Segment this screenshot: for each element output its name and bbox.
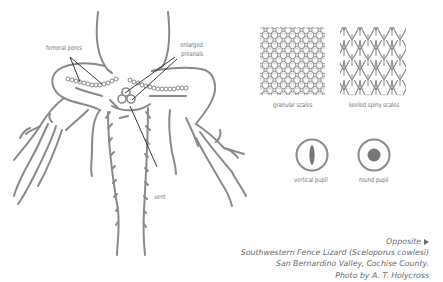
caption-species: Southwestern Fence Lizard (Sceloporus co… [241,247,429,258]
keeled-spiny-scales-icon [340,27,406,95]
vent-label: vent [154,194,166,201]
opposite-reference: Opposite [241,236,429,247]
enlarged-preanals-label-line2: preanals [181,51,203,58]
photo-caption: Opposite Southwestern Fence Lizard (Scel… [241,236,429,281]
round-pupil-icon [359,140,390,171]
caption-location: San Bernardino Valley, Cochise County. [241,258,429,269]
enlarged-preanals-label-line1: enlarged [180,42,203,49]
opposite-label: Opposite [386,237,421,246]
femoral-pores-label: femoral pores [46,45,82,52]
triangle-right-icon [424,239,429,245]
vertical-pupil-label: vertical pupil [294,177,328,184]
round-pupil-label: round pupil [359,177,388,184]
granular-scales-label: granular scales [273,102,313,109]
caption-credit: Photo by A. T. Holycross [241,270,429,281]
vertical-pupil-icon [297,140,328,171]
keeled-spiny-scales-label: keeled spiny scales [349,102,399,109]
